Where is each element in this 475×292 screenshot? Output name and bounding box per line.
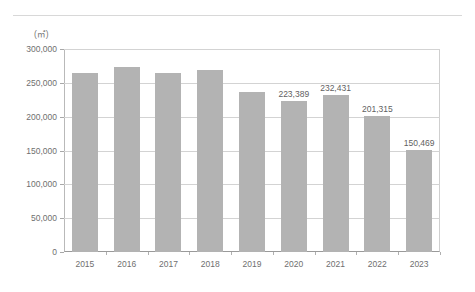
bar <box>323 95 349 252</box>
bar <box>155 73 181 252</box>
x-axis-tick <box>398 252 399 255</box>
bar-value-label: 201,315 <box>362 104 393 114</box>
y-axis-tick <box>60 117 64 118</box>
y-axis-label: 250,000 <box>26 78 57 88</box>
y-axis-tick <box>60 184 64 185</box>
bar <box>72 73 98 252</box>
x-axis-tick <box>440 252 441 255</box>
y-axis-tick <box>60 49 64 50</box>
y-axis-label: 50,000 <box>31 213 57 223</box>
x-axis-tick <box>106 252 107 255</box>
x-axis-tick <box>189 252 190 255</box>
x-axis-label: 2021 <box>326 259 345 269</box>
x-axis-label: 2015 <box>75 259 94 269</box>
bar <box>197 70 223 252</box>
x-axis-label: 2022 <box>368 259 387 269</box>
bar-value-label: 232,431 <box>320 83 351 93</box>
x-axis-label: 2023 <box>410 259 429 269</box>
chart-page: (㎡) 050,000100,000150,000200,000250,0003… <box>0 0 475 292</box>
x-axis-tick <box>148 252 149 255</box>
bar-value-label: 223,389 <box>278 89 309 99</box>
x-axis-tick <box>231 252 232 255</box>
y-axis-label: 0 <box>52 247 57 257</box>
x-axis-label: 2018 <box>201 259 220 269</box>
y-axis-tick <box>60 218 64 219</box>
x-axis-label: 2019 <box>243 259 262 269</box>
x-axis-tick <box>356 252 357 255</box>
bar <box>114 67 140 252</box>
y-axis-label: 300,000 <box>26 44 57 54</box>
y-axis-unit-label: (㎡) <box>34 27 49 39</box>
y-axis-label: 200,000 <box>26 112 57 122</box>
plot-area: 050,000100,000150,000200,000250,000300,0… <box>64 49 440 252</box>
bar <box>406 150 432 252</box>
x-axis-label: 2017 <box>159 259 178 269</box>
x-axis-tick <box>273 252 274 255</box>
y-axis-tick <box>60 151 64 152</box>
y-axis-label: 150,000 <box>26 146 57 156</box>
x-axis-label: 2020 <box>284 259 303 269</box>
bar-chart: (㎡) 050,000100,000150,000200,000250,0003… <box>0 0 475 292</box>
bar <box>239 92 265 252</box>
bar <box>281 101 307 252</box>
x-axis-label: 2016 <box>117 259 136 269</box>
y-axis-tick <box>60 83 64 84</box>
bar-value-label: 150,469 <box>404 138 435 148</box>
gridline <box>64 49 440 50</box>
x-axis-tick <box>315 252 316 255</box>
bar <box>364 116 390 252</box>
y-axis-label: 100,000 <box>26 179 57 189</box>
y-axis-tick <box>60 252 64 253</box>
